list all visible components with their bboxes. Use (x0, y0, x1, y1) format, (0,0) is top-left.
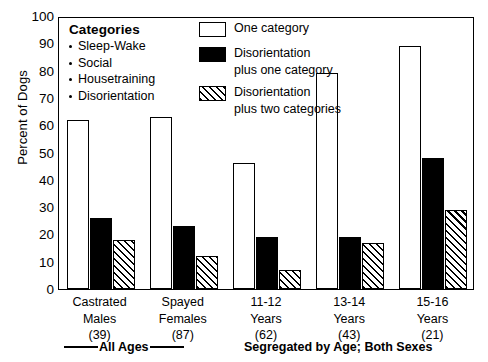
legend-label: Disorientationplus two categories (234, 84, 469, 118)
category-item-label: Housetraining (78, 72, 155, 86)
x-axis-label-line: Spayed (141, 294, 224, 311)
y-tick-label: 100 (14, 10, 54, 24)
legend-swatch-solid (199, 47, 226, 62)
x-axis-group-label: 15-16Years(21) (391, 294, 474, 344)
legend-label-line: Disorientation (234, 84, 469, 101)
x-axis-label-line: Females (141, 311, 224, 328)
y-tick-label: 50 (14, 147, 54, 161)
x-axis-label-line: Years (391, 311, 474, 328)
legend-label-line: One category (234, 20, 469, 37)
x-axis-label-line: Years (224, 311, 307, 328)
categories-title: Categories (69, 22, 197, 37)
footer-right-label: Segregated by Age; Both Sexes (244, 340, 432, 354)
category-item: Sleep-Wake (69, 38, 197, 55)
y-tick-label: 70 (14, 92, 54, 106)
x-axis-label-line: Castrated (58, 294, 141, 311)
x-axis-label-line: 15-16 (391, 294, 474, 311)
footer-left: All Ages (64, 340, 184, 354)
y-tick-label: 60 (14, 119, 54, 133)
x-axis-group-label: 11-12Years(62) (224, 294, 307, 344)
x-axis-label-line: 13-14 (308, 294, 391, 311)
footer-caption: All Ages Segregated by Age; Both Sexes (58, 340, 474, 360)
legend-entry: Disorientationplus two categories (199, 84, 469, 118)
y-tick-label: 0 (14, 283, 54, 297)
x-axis-group-label: CastratedMales(39) (58, 294, 141, 344)
y-axis-ticks: 0102030405060708090100 (14, 10, 54, 298)
y-tick-label: 90 (14, 37, 54, 51)
legend-label-line: plus two categories (234, 101, 469, 118)
bullet-icon (69, 95, 72, 98)
y-tick-label: 20 (14, 228, 54, 242)
category-item-label: Social (78, 56, 112, 70)
legend-label: Disorientationplus one category (234, 45, 469, 79)
footer-left-label: All Ages (99, 340, 149, 354)
legend-label-line: Disorientation (234, 45, 469, 62)
category-item-label: Disorientation (78, 89, 154, 103)
bullet-icon (69, 45, 72, 48)
x-axis-label-line: Males (58, 311, 141, 328)
bar-hatch (445, 210, 467, 289)
legend-entry: Disorientationplus one category (199, 45, 469, 79)
y-tick-label: 10 (14, 256, 54, 270)
categories-list: Sleep-WakeSocialHousetrainingDisorientat… (69, 38, 197, 104)
category-item: Housetraining (69, 71, 197, 88)
legend-swatch-hatch (199, 86, 226, 101)
bullet-icon (69, 78, 72, 81)
bullet-icon (69, 62, 72, 65)
x-axis-group-label: 13-14Years(43) (308, 294, 391, 344)
category-item: Disorientation (69, 88, 197, 105)
legend-label-line: plus one category (234, 62, 469, 79)
legend-entry: One category (199, 20, 469, 40)
x-axis-group-label: SpayedFemales(87) (141, 294, 224, 344)
y-tick-label: 80 (14, 65, 54, 79)
legend: One categoryDisorientationplus one categ… (199, 20, 469, 123)
footer-rule-left-icon (64, 346, 98, 348)
y-tick-label: 40 (14, 174, 54, 188)
footer-rule-right-icon (150, 346, 184, 348)
legend-label: One category (234, 20, 469, 37)
plot-area: Categories Sleep-WakeSocialHousetraining… (58, 17, 474, 290)
x-axis-label-line: Years (308, 311, 391, 328)
chart-figure: Percent of Dogs 0102030405060708090100 C… (0, 0, 488, 362)
plot-inner: Categories Sleep-WakeSocialHousetraining… (59, 18, 473, 289)
bar-solid (422, 158, 444, 289)
category-item: Social (69, 55, 197, 72)
legend-swatch-open (199, 22, 226, 37)
category-item-label: Sleep-Wake (78, 39, 146, 53)
y-tick-label: 30 (14, 201, 54, 215)
categories-box: Categories Sleep-WakeSocialHousetraining… (69, 22, 197, 104)
x-axis-label-line: 11-12 (224, 294, 307, 311)
